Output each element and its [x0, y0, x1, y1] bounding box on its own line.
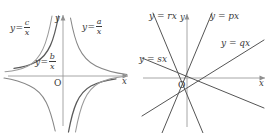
right-x-axis-label: x	[259, 79, 264, 88]
label-y-equals-rx: y = rx	[149, 12, 177, 21]
fraction-c-over-x: cx	[24, 19, 31, 38]
label-c-equals: =	[15, 23, 24, 33]
line-y-equals-sx	[142, 58, 264, 108]
left-origin-label: O	[54, 79, 61, 88]
fraction-a-numerator: a	[96, 18, 103, 26]
label-y-equals-px: y = px	[210, 12, 239, 21]
label-y-equals-qx: y = qx	[221, 39, 250, 48]
hyperbola-chart-panel: y=cx y=ax y=bx y x O	[0, 0, 137, 133]
curve-c-branch-q4	[69, 79, 117, 132]
curve-b-branch-q4	[76, 76, 125, 132]
right-origin-label: O	[178, 81, 185, 90]
y-axis-arrow	[61, 15, 66, 21]
label-y-equals-sx: y = sx	[139, 55, 167, 64]
fraction-a-denominator: x	[96, 28, 103, 36]
label-y-equals-c-over-x: y=cx	[10, 19, 30, 38]
curve-a-branch-q3	[4, 78, 55, 131]
label-b-equals: =	[40, 57, 49, 67]
right-y-axis-label: y	[180, 13, 185, 22]
left-y-axis-label: y	[55, 14, 60, 23]
label-y-equals-b-over-x: y=bx	[35, 53, 56, 72]
proportional-lines-chart-panel: y = px y = qx y = rx y = sx y x O	[137, 0, 273, 133]
label-y-equals-a-over-x: y=ax	[82, 18, 102, 37]
y-axis-arrow	[185, 14, 190, 20]
fraction-b-denominator: x	[49, 63, 56, 71]
fraction-b-over-x: bx	[49, 53, 56, 72]
figure-root: y=cx y=ax y=bx y x O	[0, 0, 273, 133]
fraction-b-numerator: b	[49, 53, 56, 61]
label-a-equals: =	[87, 22, 96, 32]
fraction-a-over-x: ax	[96, 18, 103, 37]
fraction-c-numerator: c	[24, 19, 31, 27]
fraction-c-denominator: x	[24, 29, 31, 37]
left-x-axis-label: x	[122, 77, 127, 86]
